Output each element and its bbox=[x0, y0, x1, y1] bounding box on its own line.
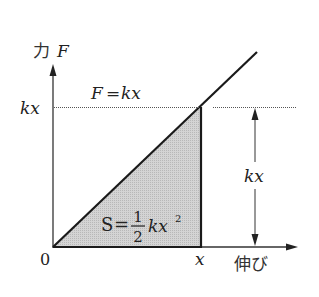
dimension-arrow-down-icon bbox=[252, 234, 259, 246]
area-frac-den: 2 bbox=[133, 228, 143, 246]
area-label-lhs: S bbox=[101, 214, 113, 235]
dimension-arrow-up-icon bbox=[252, 108, 259, 120]
equation-eq: = bbox=[106, 83, 120, 103]
area-label-rhs: kx bbox=[148, 216, 168, 236]
equation-lhs: F bbox=[90, 83, 104, 103]
origin-label: 0 bbox=[40, 250, 50, 269]
x-axis-label-jp: 伸び bbox=[234, 254, 268, 274]
y-axis-label-var: F bbox=[56, 41, 70, 61]
force-extension-diagram: 力 F kx F = kx S = 1 2 kx 2 kx 0 x 伸び bbox=[0, 0, 319, 297]
y-axis-arrow-icon bbox=[50, 64, 57, 76]
y-tick-label-kx: kx bbox=[20, 98, 40, 118]
dimension-label-kx: kx bbox=[244, 166, 264, 186]
equation-rhs: kx bbox=[121, 83, 141, 103]
x-axis-arrow-icon bbox=[286, 244, 298, 251]
area-frac-num: 1 bbox=[133, 208, 143, 226]
area-label-exp: 2 bbox=[175, 213, 181, 224]
y-axis-label-jp: 力 bbox=[33, 41, 50, 61]
x-tick-label: x bbox=[195, 249, 205, 269]
area-label-eq: = bbox=[114, 214, 129, 235]
